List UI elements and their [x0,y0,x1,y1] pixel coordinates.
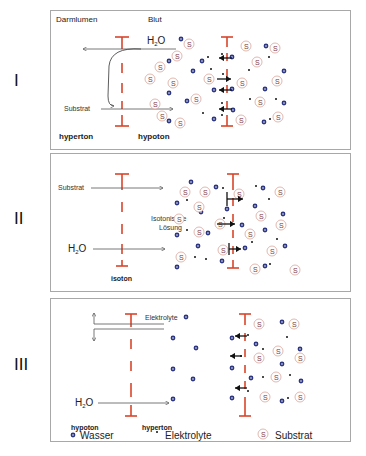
isotonic-label-2: Lösung [159,224,182,232]
substrate-molecules: S S S S S S S S S S S S S S S S [174,187,300,275]
curved-arrow [108,49,141,106]
svg-text:S: S [259,213,264,220]
hyperton-label: hyperton [59,132,93,141]
svg-text:S: S [278,189,283,196]
svg-text:S: S [244,43,249,50]
svg-text:S: S [273,45,278,52]
svg-text:S: S [197,204,202,211]
electrolytes-label: Elektrolyte [145,314,178,322]
panel-hypertonic: Darmlumen Blut H2O Substrat hyperton hyp… [50,10,351,150]
panel-3-number: III [14,355,28,375]
svg-text:S: S [183,189,188,196]
panel-1-diagram: Darmlumen Blut H2O Substrat hyperton hyp… [51,11,352,151]
substrate-legend-icon: S [258,429,268,439]
svg-text:S: S [203,189,208,196]
svg-text:S: S [153,101,158,108]
svg-text:S: S [258,99,263,106]
svg-text:S: S [178,120,183,127]
water-molecules [167,37,285,123]
darmlumen-label: Darmlumen [56,15,97,24]
svg-text:S: S [171,80,176,87]
legend-substrate: Substrat [275,430,312,441]
water-molecules [171,315,302,402]
hypoton-label: hypoton [138,132,170,141]
panel-isotonic: Substrat Isotonische Lösung H2O isoton S… [50,153,351,292]
svg-text:S: S [187,41,192,48]
water-label: H2O [68,243,87,255]
svg-text:S: S [197,229,202,236]
svg-text:S: S [292,321,297,328]
electrolyte-legend-icon [156,431,158,433]
panel-hypotonic: Elektrolyte H2O hypoton hyperton S S S S… [50,298,351,442]
legend: Wasser Elektrolyte S Substrat [71,429,312,441]
svg-text:S: S [275,78,280,85]
svg-text:S: S [207,76,212,83]
svg-text:S: S [194,96,199,103]
water-label: H2O [75,397,94,409]
electrolyte-dots [186,185,278,265]
panel-3-diagram: Elektrolyte H2O hypoton hyperton S S S S… [51,299,352,443]
svg-text:S: S [177,216,182,223]
molecular-membrane [221,37,233,126]
svg-text:S: S [257,321,262,328]
water-legend-icon [71,433,74,436]
svg-text:S: S [248,231,253,238]
svg-text:S: S [221,247,226,254]
panel-2-number: II [14,209,23,229]
isoton-label: isoton [111,275,132,282]
svg-text:S: S [257,355,262,362]
svg-text:S: S [276,348,281,355]
transport-arrows [217,58,232,109]
legend-electrolytes: Elektrolyte [165,430,212,441]
svg-text:S: S [274,374,279,381]
panel-1-number: I [14,71,19,91]
transport-arrows [51,154,243,255]
electrolyte-dots [240,334,291,399]
svg-text:S: S [179,254,184,261]
svg-text:S: S [148,76,153,83]
svg-text:S: S [240,80,245,87]
blut-label: Blut [148,15,163,24]
svg-text:S: S [263,394,268,401]
legend-water: Wasser [80,430,114,441]
svg-text:S: S [239,117,244,124]
svg-text:S: S [160,113,165,120]
substrate-label: Substrat [58,184,84,191]
svg-text:S: S [293,267,298,274]
svg-text:S: S [298,394,303,401]
svg-text:S: S [175,53,180,60]
svg-text:S: S [276,114,281,121]
svg-text:S: S [270,248,275,255]
substrate-molecules: S S S S S S S S S S S S S S S S S S [145,39,283,128]
water-label: H2O [147,35,166,47]
svg-text:S: S [261,431,266,438]
svg-text:S: S [279,222,284,229]
substrate-molecules: S S S S S S S S [254,319,305,402]
svg-text:S: S [158,64,163,71]
svg-text:S: S [237,191,242,198]
svg-text:S: S [253,266,258,273]
substrate-label: Substrat [64,105,90,112]
molecular-membrane [239,314,251,416]
panel-2-diagram: Substrat Isotonische Lösung H2O isoton S… [51,154,352,293]
svg-text:S: S [255,59,260,66]
transport-arrows [230,336,247,388]
svg-text:S: S [298,355,303,362]
